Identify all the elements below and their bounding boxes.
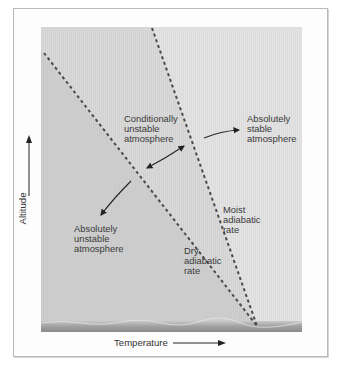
- moist-adiabatic-label: Moist adiabatic rate: [223, 205, 261, 236]
- conditionally-unstable-label: Conditionally unstable atmosphere: [124, 114, 178, 145]
- x-axis-label: Temperature: [114, 337, 168, 348]
- x-axis-arrow: [172, 338, 227, 348]
- absolutely-unstable-label: Absolutely unstable atmosphere: [74, 224, 124, 255]
- dry-adiabatic-label: Dry adiabatic rate: [184, 246, 222, 277]
- y-axis-label: Altitude: [17, 193, 28, 225]
- diagram-panel: Conditionally unstable atmosphere Absolu…: [41, 27, 302, 332]
- absolutely-stable-label: Absolutely stable atmosphere: [247, 114, 297, 145]
- lapse-rate-diagram: [41, 27, 302, 332]
- y-axis-arrow: [24, 134, 34, 196]
